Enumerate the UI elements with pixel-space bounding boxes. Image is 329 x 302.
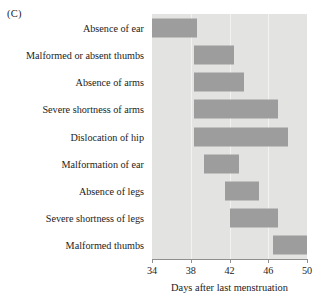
- x-axis-tick-label: 42: [224, 265, 234, 276]
- x-axis-tick: [307, 259, 308, 263]
- category-label: Absence of legs: [0, 185, 144, 196]
- category-label: Malformed or absent thumbs: [0, 49, 144, 60]
- chart-figure: (C) Absence of earMalformed or absent th…: [0, 0, 329, 302]
- category-label: Severe shortness of arms: [0, 104, 144, 115]
- x-axis-tick-label: 50: [302, 265, 312, 276]
- x-axis-tick-label: 38: [186, 265, 196, 276]
- bar: [194, 73, 244, 92]
- bar: [225, 181, 259, 200]
- gridline: [191, 14, 192, 259]
- plot-area: [152, 14, 307, 259]
- bar: [194, 45, 235, 64]
- bar: [152, 18, 197, 37]
- category-label: Malformation of ear: [0, 158, 144, 169]
- x-axis-tick: [191, 259, 192, 263]
- category-label: Malformed thumbs: [0, 240, 144, 251]
- bar: [194, 100, 278, 119]
- bar: [204, 154, 239, 173]
- category-label: Severe shortness of legs: [0, 213, 144, 224]
- category-label: Dislocation of hip: [0, 131, 144, 142]
- bar: [230, 209, 278, 228]
- bar: [194, 127, 288, 146]
- x-axis-tick-label: 34: [147, 265, 157, 276]
- category-axis-labels: Absence of earMalformed or absent thumbs…: [0, 14, 148, 259]
- x-axis-tick: [152, 259, 153, 263]
- x-axis-title: Days after last menstruation: [152, 282, 307, 293]
- category-label: Absence of arms: [0, 77, 144, 88]
- bar: [273, 236, 307, 255]
- x-axis-tick: [230, 259, 231, 263]
- category-label: Absence of ear: [0, 22, 144, 33]
- x-axis-tick: [268, 259, 269, 263]
- x-axis-tick-label: 46: [263, 265, 273, 276]
